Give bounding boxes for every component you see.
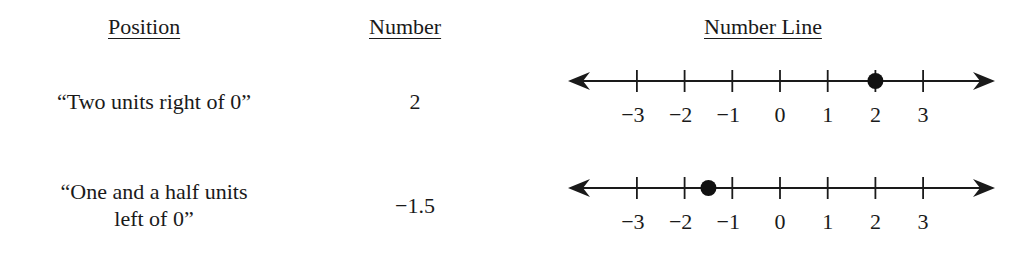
number-line-2: −3−2−10123 (568, 177, 995, 234)
tick-label: 1 (822, 209, 833, 234)
tick-label: −2 (669, 102, 692, 127)
tick-label: −2 (669, 209, 692, 234)
tick-label: 0 (775, 102, 786, 127)
tick-label: −1 (717, 209, 740, 234)
point-dot (867, 73, 883, 89)
tick-label: 3 (918, 102, 929, 127)
tick-label: 1 (822, 102, 833, 127)
tick-label: −3 (621, 209, 644, 234)
number-line-1: −3−2−10123 (568, 70, 995, 127)
tick-label: 2 (870, 209, 881, 234)
point-dot (700, 180, 716, 196)
tick-label: 3 (918, 209, 929, 234)
tick-label: 2 (870, 102, 881, 127)
tick-label: −3 (621, 102, 644, 127)
number-lines: −3−2−10123 −3−2−10123 (0, 0, 1023, 255)
tick-label: 0 (775, 209, 786, 234)
tick-label: −1 (717, 102, 740, 127)
